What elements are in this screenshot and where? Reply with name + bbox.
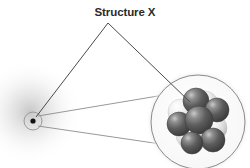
nucleon-dark-5 <box>201 128 225 152</box>
diagram-canvas <box>0 0 250 168</box>
nucleus-dot <box>30 118 35 123</box>
structure-x-diagram: Structure X <box>0 0 250 168</box>
electron-cloud <box>0 60 82 164</box>
nucleon-dark-6 <box>181 132 203 154</box>
page-title: Structure X <box>0 5 250 19</box>
